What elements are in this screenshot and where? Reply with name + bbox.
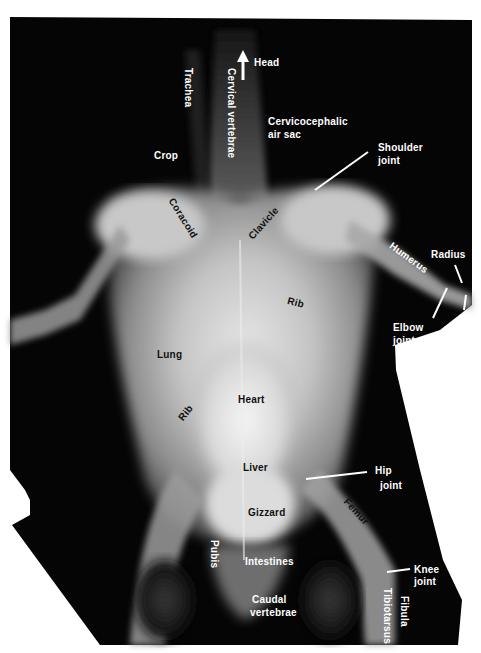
label-liver: Liver	[243, 462, 268, 473]
label-shoulder-joint-1: Shoulder	[378, 142, 423, 153]
label-hip-joint-2: joint	[380, 480, 402, 491]
label-shoulder-joint-2: joint	[378, 155, 400, 166]
label-cervicocephalic-1: Cervicocephalic	[268, 116, 348, 127]
label-intestines: Intestines	[245, 556, 294, 567]
label-cervicocephalic-2: air sac	[268, 129, 301, 140]
label-cervical-vertebrae: Cervical vertebrae	[226, 68, 237, 158]
label-fibula: Fibula	[399, 596, 410, 627]
label-caudal-vertebrae-2: vertebrae	[250, 607, 297, 618]
label-caudal-vertebrae-1: Caudal	[252, 594, 287, 605]
label-ulna: Ulna	[444, 325, 466, 336]
label-tibiotarsus: Tibiotarsus	[382, 588, 393, 644]
label-lung: Lung	[157, 349, 182, 360]
label-crop: Crop	[154, 150, 178, 161]
label-gizzard: Gizzard	[248, 507, 286, 518]
label-knee-joint-2: joint	[414, 576, 436, 587]
label-head: Head	[254, 57, 279, 68]
label-knee-joint-1: Knee	[414, 564, 439, 575]
label-elbow-joint-2: joint	[393, 335, 415, 346]
label-heart: Heart	[238, 394, 265, 405]
label-hip-joint-1: Hip	[375, 465, 392, 476]
label-elbow-joint-1: Elbow	[393, 322, 423, 333]
label-radius: Radius	[431, 249, 466, 260]
label-trachea: Trachea	[183, 68, 194, 107]
label-pubis: Pubis	[209, 540, 220, 568]
